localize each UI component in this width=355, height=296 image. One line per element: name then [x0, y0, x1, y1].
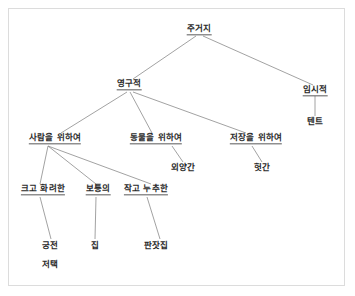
tree-node-permanent: 영구적	[117, 79, 142, 90]
tree-node-shed: 헛간	[254, 163, 270, 172]
tree-node-barn: 외양간	[171, 163, 196, 172]
tree-node-grand: 크고 화려한	[21, 184, 65, 195]
tree-node-shanty: 판잣집	[144, 241, 169, 250]
tree-node-for-people: 사람을 위하여	[29, 133, 81, 144]
tree-node-palace: 궁전	[42, 241, 58, 250]
tree-node-tent: 텐트	[307, 117, 323, 126]
tree-node-house: 집	[91, 241, 99, 250]
tree-node-for-animals: 동물을 위하여	[130, 133, 182, 144]
tree-node-humble: 작고 누추한	[124, 184, 168, 195]
tree-node-root: 주거지	[187, 24, 212, 35]
diagram-frame	[8, 8, 345, 286]
tree-node-mansion: 저택	[42, 260, 58, 269]
diagram-canvas: 주거지영구적임시적텐트사람을 위하여동물을 위하여저장을 위하여외양간헛간크고 …	[0, 0, 355, 296]
tree-node-ordinary: 보통의	[86, 184, 111, 195]
tree-node-for-storage: 저장을 위하여	[230, 133, 282, 144]
tree-node-temporary: 임시적	[303, 85, 328, 96]
